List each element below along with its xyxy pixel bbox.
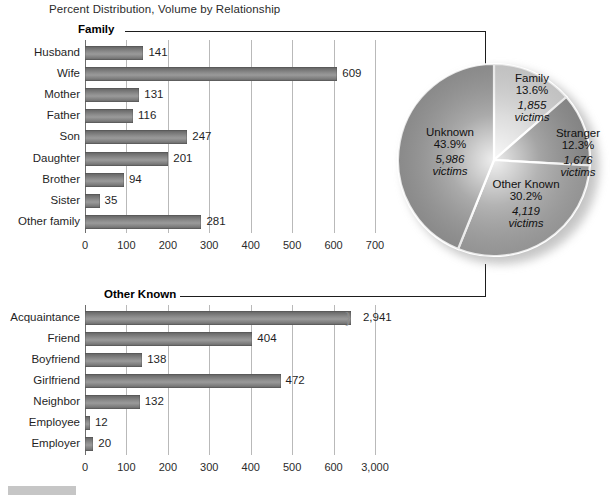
bar-value-label: 247 xyxy=(192,130,211,143)
category-label: Girlfriend xyxy=(0,374,80,387)
family-plot-area: 0100200300400500600700 14160913111624720… xyxy=(0,40,420,255)
pie-slice-unit: victims xyxy=(478,217,574,229)
bar xyxy=(85,374,281,388)
pie-slice-percent: 12.3% xyxy=(536,139,610,151)
pie-slice-count: 1,676 xyxy=(536,154,610,166)
pie-label-stranger: Stranger 12.3% 1,676 victims xyxy=(536,127,610,178)
page-title: Percent Distribution, Volume by Relation… xyxy=(49,3,280,15)
pie-slice-name: Unknown xyxy=(408,126,492,138)
category-label: Daughter xyxy=(0,152,80,165)
bar xyxy=(85,130,187,144)
other-known-plot-area: 01002003004005006003,000 }2,941404138472… xyxy=(0,305,420,484)
bar xyxy=(85,416,90,430)
bar-value-label: 138 xyxy=(147,353,166,366)
pie-slice-count: 5,986 xyxy=(408,153,492,165)
bar-value-label: 116 xyxy=(138,109,156,122)
pie-slice-percent: 30.2% xyxy=(478,190,574,202)
pie-slice-unit: victims xyxy=(408,165,492,177)
pie-slice-percent: 13.6% xyxy=(490,84,574,96)
gridline xyxy=(375,305,376,455)
bar-value-label: 132 xyxy=(145,395,164,408)
bar-value-label: 35 xyxy=(105,194,118,207)
pie-label-family: Family 13.6% 1,855 victims xyxy=(490,72,574,123)
pie-slice-name: Family xyxy=(490,72,574,84)
gridline xyxy=(334,305,335,455)
other-known-leader-line-vertical xyxy=(485,264,486,297)
other-known-panel-header: Other Known xyxy=(104,288,176,300)
bar xyxy=(85,67,337,81)
category-label: Mother xyxy=(0,88,80,101)
pie-slice-name: Other Known xyxy=(478,178,574,190)
category-label: Acquaintance xyxy=(0,311,80,324)
footer-marker xyxy=(8,486,76,495)
bar xyxy=(85,173,124,187)
axis-break-symbol: } xyxy=(344,310,352,327)
bar-value-label: 201 xyxy=(173,152,192,165)
bar xyxy=(85,194,100,208)
pie-slice-unit: victims xyxy=(490,111,574,123)
category-label: Husband xyxy=(0,46,80,59)
bar-value-label: 609 xyxy=(342,67,361,80)
bar xyxy=(85,152,168,166)
bar-value-label: 404 xyxy=(257,332,276,345)
bar xyxy=(85,109,133,123)
bar-value-label: 12 xyxy=(95,416,108,429)
other-known-bar-chart-panel: Other Known 01002003004005006003,000 }2,… xyxy=(0,288,420,484)
bar-value-label: 94 xyxy=(129,173,142,186)
category-label: Father xyxy=(0,109,80,122)
bar-value-label: 131 xyxy=(144,88,163,101)
bar xyxy=(85,215,201,229)
bar-value-label: 2,941 xyxy=(363,311,392,324)
bar xyxy=(85,437,93,451)
bar xyxy=(85,353,142,367)
category-label: Friend xyxy=(0,332,80,345)
bar xyxy=(85,46,143,60)
pie-label-unknown: Unknown 43.9% 5,986 victims xyxy=(408,126,492,177)
category-label: Wife xyxy=(0,67,80,80)
category-label: Sister xyxy=(0,194,80,207)
bar xyxy=(85,311,351,325)
category-label: Boyfriend xyxy=(0,353,80,366)
bar-value-label: 281 xyxy=(206,215,225,228)
family-leader-line-horizontal xyxy=(125,31,486,32)
category-label: Brother xyxy=(0,173,80,186)
family-bar-chart-panel: Family 0100200300400500600700 1416091311… xyxy=(0,22,420,257)
bar xyxy=(85,332,252,346)
category-label: Son xyxy=(0,130,80,143)
category-label: Employee xyxy=(0,416,80,429)
pie-label-other-known: Other Known 30.2% 4,119 victims xyxy=(478,178,574,229)
category-label: Employer xyxy=(0,437,80,450)
category-label: Neighbor xyxy=(0,395,80,408)
pie-slice-percent: 43.9% xyxy=(408,138,492,150)
bar-value-label: 141 xyxy=(148,46,167,59)
bar-value-label: 20 xyxy=(98,437,111,450)
category-label: Other family xyxy=(0,215,80,228)
relationship-pie-chart: Family 13.6% 1,855 victims Stranger 12.3… xyxy=(396,60,600,264)
family-panel-header: Family xyxy=(78,23,114,35)
pie-slice-count: 4,119 xyxy=(478,205,574,217)
pie-slice-unit: victims xyxy=(536,166,610,178)
gridline xyxy=(375,40,376,233)
bar xyxy=(85,88,139,102)
x-axis-tick-label: 3,000 xyxy=(345,461,405,473)
pie-slice-name: Stranger xyxy=(536,127,610,139)
other-known-leader-line-horizontal xyxy=(180,296,486,297)
pie-slice-count: 1,855 xyxy=(490,99,574,111)
bar-value-label: 472 xyxy=(286,374,305,387)
bar xyxy=(85,395,140,409)
